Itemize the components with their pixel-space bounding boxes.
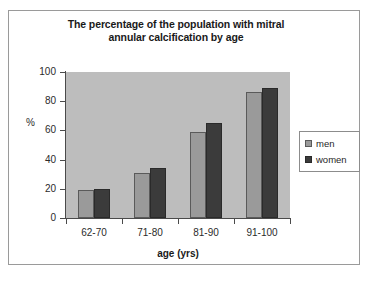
bar-men-71-80: [134, 173, 150, 218]
y-axis-tick: [60, 130, 65, 131]
y-axis-tick-label: 60: [16, 125, 56, 135]
y-axis-tick-label: 80: [16, 96, 56, 106]
legend-item-women: women: [305, 154, 347, 165]
y-axis-tick-label: 100: [16, 67, 56, 77]
x-axis-tick: [290, 219, 291, 224]
x-axis-category-label: 62-70: [66, 227, 122, 238]
x-axis-title: age (yrs): [66, 248, 290, 259]
x-axis-tick: [234, 219, 235, 224]
y-axis-tick-label: 20: [16, 184, 56, 194]
y-axis-tick: [60, 160, 65, 161]
y-axis-tick: [60, 189, 65, 190]
y-axis-tick: [60, 218, 65, 219]
x-axis-category-label: 91-100: [234, 227, 290, 238]
bar-men-62-70: [78, 190, 94, 218]
bar-women-62-70: [94, 189, 110, 218]
y-axis-tick-label: 0: [16, 213, 56, 223]
chart-title-line-1: The percentage of the population with mi…: [30, 18, 322, 31]
y-axis-tick: [60, 101, 65, 102]
chart-title: The percentage of the population with mi…: [30, 18, 322, 44]
caption-strip: [0, 276, 368, 285]
x-axis-category-label: 71-80: [122, 227, 178, 238]
bar-men-81-90: [190, 132, 206, 218]
legend-label-men: men: [316, 138, 334, 149]
legend-item-men: men: [305, 138, 334, 149]
y-axis-tick: [60, 72, 65, 73]
bar-women-91-100: [262, 88, 278, 218]
bar-women-71-80: [150, 168, 166, 218]
legend-label-women: women: [316, 154, 347, 165]
x-axis-tick: [178, 219, 179, 224]
x-axis-category-label: 81-90: [178, 227, 234, 238]
legend-swatch-men-icon: [305, 140, 312, 147]
bar-men-91-100: [246, 92, 262, 218]
legend: men women: [299, 131, 360, 172]
x-axis-tick: [66, 219, 67, 224]
bar-women-81-90: [206, 123, 222, 218]
y-axis-line: [65, 71, 66, 219]
y-axis-tick-label: 40: [16, 155, 56, 165]
legend-swatch-women-icon: [305, 156, 312, 163]
x-axis-tick: [122, 219, 123, 224]
y-axis-title: %: [26, 117, 35, 128]
chart-title-line-2: annular calcification by age: [30, 31, 322, 44]
